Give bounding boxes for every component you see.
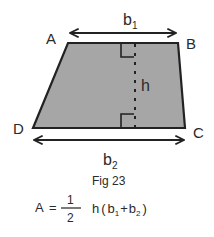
formula-numerator: 1 — [67, 193, 74, 207]
area-formula: A = 1 2 h(b1+b2) — [35, 193, 147, 225]
formula-h: h(b1+b2) — [92, 201, 147, 218]
trapezoid-diagram: A B D C b1 h b2 Fig 23 A = 1 2 h(b1+b2) — [0, 0, 214, 237]
figure-caption: Fig 23 — [92, 174, 126, 188]
height-label: h — [141, 77, 150, 94]
formula-equals: = — [49, 200, 57, 215]
vertex-b-label: B — [186, 35, 196, 52]
formula-lhs: A — [35, 200, 44, 215]
vertex-c-label: C — [193, 124, 204, 141]
vertex-a-label: A — [46, 30, 56, 47]
trapezoid-shape — [33, 43, 185, 128]
bottom-base-label: b2 — [103, 151, 118, 171]
top-base-label: b1 — [123, 11, 138, 31]
formula-denominator: 2 — [67, 211, 74, 225]
vertex-d-label: D — [13, 120, 24, 137]
